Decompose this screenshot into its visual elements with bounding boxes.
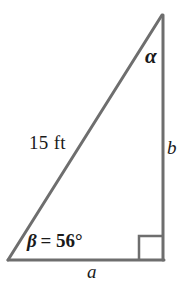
right-angle-marker-icon bbox=[139, 236, 163, 260]
side-a-label: a bbox=[87, 262, 97, 281]
angle-alpha-label: α bbox=[145, 46, 157, 67]
angle-beta-label: β = 56° bbox=[27, 231, 83, 250]
angle-beta-value: = 56° bbox=[41, 230, 83, 251]
right-triangle-figure: 15 ft β = 56° α b a bbox=[0, 0, 180, 286]
beta-symbol: β bbox=[27, 230, 37, 251]
hypotenuse-length-label: 15 ft bbox=[29, 133, 66, 152]
side-b-label: b bbox=[167, 138, 177, 157]
